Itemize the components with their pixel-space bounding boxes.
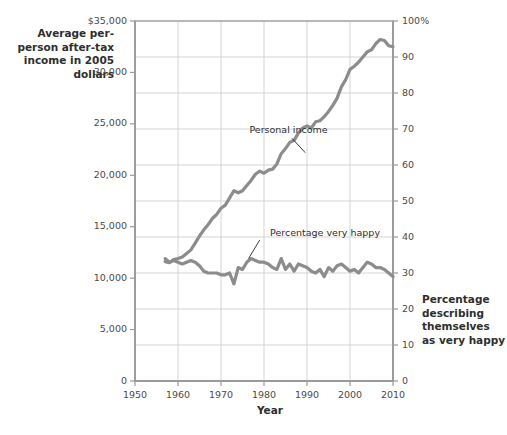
- y-axis-right-tick-label: 70: [402, 123, 442, 134]
- y-axis-left-tick-label: 10,000: [71, 272, 127, 283]
- x-axis-tick-label: 1960: [158, 389, 198, 400]
- x-axis-tick-label: 1950: [115, 389, 155, 400]
- leader-percentage-very-happy: [249, 240, 260, 259]
- x-axis-tick-label: 1990: [287, 389, 327, 400]
- x-axis-tick-label: 1970: [201, 389, 241, 400]
- series-line-percentage-very-happy: [165, 259, 393, 284]
- y-axis-right-tick-label: 50: [402, 195, 442, 206]
- y-axis-right-tick-label: 60: [402, 159, 442, 170]
- y-axis-right-tick-label: 20: [402, 303, 442, 314]
- y-axis-left-tick-label: 0: [71, 375, 127, 386]
- y-axis-left-tick-label: $35,000: [71, 15, 127, 26]
- x-axis-tick-label: 2000: [330, 389, 370, 400]
- leader-personal-income: [292, 138, 305, 152]
- x-axis-tick-label: 1980: [244, 389, 284, 400]
- annotation-personal-income: Personal income: [249, 124, 327, 135]
- y-axis-right-tick-label: 10: [402, 339, 442, 350]
- y-axis-right-tick-label: 30: [402, 267, 442, 278]
- annotation-leaders: [249, 138, 306, 258]
- y-axis-right-tick-label: 40: [402, 231, 442, 242]
- y-axis-right-tick-label: 0: [402, 375, 442, 386]
- y-axis-right-tick-label: 80: [402, 87, 442, 98]
- chart-figure: Average per-person after-tax income in 2…: [0, 0, 507, 435]
- annotation-percentage-very-happy: Percentage very happy: [270, 227, 380, 238]
- x-axis-tick-label: 2010: [373, 389, 413, 400]
- y-axis-right-tick-label: 100%: [402, 15, 442, 26]
- y-axis-left-tick-label: 20,000: [71, 169, 127, 180]
- y-axis-left-tick-label: 25,000: [71, 117, 127, 128]
- y-axis-left-tick-label: 5,000: [71, 323, 127, 334]
- y-axis-right-tick-label: 90: [402, 51, 442, 62]
- y-axis-left-tick-label: 30,000: [71, 66, 127, 77]
- y-axis-left-tick-label: 15,000: [71, 220, 127, 231]
- gridlines: [135, 21, 393, 381]
